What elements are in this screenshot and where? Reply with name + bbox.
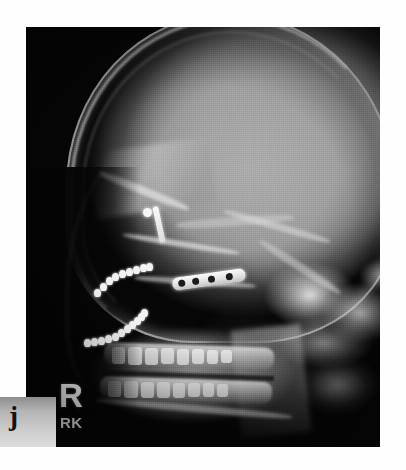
wire-chain-upper-bead-4 (112, 273, 119, 281)
wire-chain-upper (94, 263, 154, 297)
wire-chain-upper-bead-6 (126, 268, 133, 276)
wire-chain-lower-bead-3 (98, 337, 105, 345)
page-canvas: R RK j (0, 0, 406, 470)
maxillary-tooth-7 (207, 350, 218, 364)
figure-label-strip: j (0, 397, 56, 447)
mandibular-tooth-7 (203, 383, 214, 397)
wire-chain-upper-bead-5 (119, 270, 126, 278)
wire-chain-lower-bead-11 (141, 309, 148, 317)
wire-chain-lower-bead-4 (105, 335, 112, 343)
figure-letter: j (9, 403, 18, 430)
side-marker-right: R (59, 379, 83, 412)
radiograph-film: R RK (26, 27, 380, 447)
wire-chain-lower-bead-1 (84, 339, 91, 347)
wire-chain-lower (84, 309, 148, 345)
wire-chain-upper-bead-1 (94, 289, 101, 297)
cortical-screw-head (143, 208, 152, 217)
film-exposed-area: R RK (26, 27, 380, 447)
mandibular-tooth-8 (217, 384, 228, 397)
wire-chain-upper-bead-7 (133, 266, 140, 274)
technologist-initials: RK (60, 415, 82, 430)
wire-chain-upper-bead-2 (100, 283, 107, 291)
wire-chain-lower-bead-2 (91, 338, 98, 346)
wire-chain-upper-bead-9 (146, 263, 153, 271)
maxillary-tooth-8 (221, 350, 232, 363)
